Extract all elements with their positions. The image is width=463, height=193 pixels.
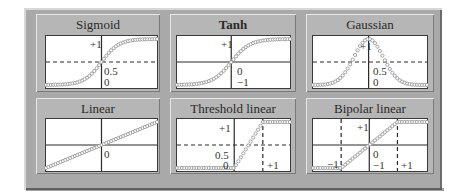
panel-linear: Linear 0 <box>36 98 160 174</box>
panel-title: Gaussian <box>306 17 434 32</box>
tick-label: 0 <box>104 149 110 160</box>
plot-linear: 0 <box>45 118 158 172</box>
panel-title: Sigmoid <box>36 17 160 32</box>
tick-label: 0 <box>104 77 110 88</box>
tick-label: 0 <box>373 77 379 88</box>
panel-tanh: Tanh +1 0 −1 <box>170 14 296 92</box>
panel-title: Bipolar linear <box>306 101 434 116</box>
tick-label: +1 <box>401 160 413 171</box>
panel-sigmoid: Sigmoid +1 0.5 0 <box>36 14 160 92</box>
tanh-curve-chart <box>177 36 290 88</box>
linear-curve-chart <box>46 119 157 171</box>
tick-label: −1 <box>237 77 249 88</box>
panel-title: Linear <box>36 101 160 116</box>
plot-tanh: +1 0 −1 <box>176 35 291 89</box>
tick-label: +1 <box>360 41 372 52</box>
plot-gaussian: +1 0.5 0 <box>312 35 428 89</box>
panel-title: Tanh <box>170 17 296 32</box>
panel-threshold-linear: Threshold linear +1 0.5 0 +1 <box>170 98 296 174</box>
panel-bipolar-linear: Bipolar linear +1 0 −1 −1 +1 <box>306 98 434 174</box>
tick-label: +1 <box>357 122 369 133</box>
frame-shadow <box>26 188 444 191</box>
tick-label: +1 <box>221 39 233 50</box>
plot-bipolar-linear: +1 0 −1 −1 +1 <box>312 118 428 172</box>
tick-label: +1 <box>90 39 102 50</box>
tick-label: +1 <box>267 160 279 171</box>
tick-label: −1 <box>373 160 385 171</box>
panel-gaussian: Gaussian +1 0.5 0 <box>306 14 434 92</box>
tick-label: +1 <box>219 123 231 134</box>
plot-threshold-linear: +1 0.5 0 +1 <box>176 118 291 172</box>
tick-label: 0 <box>223 160 229 171</box>
panel-title: Threshold linear <box>170 101 296 116</box>
plot-sigmoid: +1 0.5 0 <box>45 35 158 89</box>
tick-label: −1 <box>327 159 339 170</box>
